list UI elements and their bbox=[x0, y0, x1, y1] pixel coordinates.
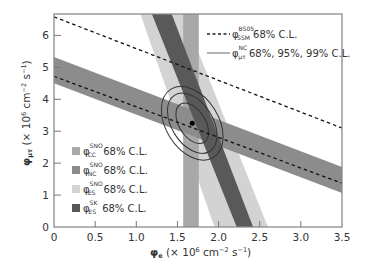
y-axis-label: φμτ (× 106 cm−2 s−1) bbox=[20, 60, 34, 166]
legend-item-es-sk: φSKES 68% C.L. bbox=[72, 199, 146, 215]
y-tick-label: 2 bbox=[42, 157, 49, 169]
x-axis-label: φe (× 106 cm−2 s−1) bbox=[150, 246, 251, 260]
legend-item-cc: φSNOCC 68% C.L. bbox=[72, 142, 148, 158]
svg-text:φSNOES 68% C.L.: φSNOES 68% C.L. bbox=[83, 180, 148, 196]
solar-neutrino-flux-chart: 00.51.01.52.02.53.03.5 0123456 φe (× 106… bbox=[0, 0, 368, 268]
x-axis-ticks: 00.51.01.52.02.53.03.5 bbox=[51, 221, 351, 243]
x-tick-label: 3.5 bbox=[334, 231, 351, 243]
y-tick-label: 6 bbox=[42, 29, 49, 41]
y-tick-label: 3 bbox=[42, 125, 49, 137]
svg-text:φSNOCC 68% C.L.: φSNOCC 68% C.L. bbox=[83, 142, 148, 158]
x-tick-label: 2.0 bbox=[210, 231, 227, 243]
y-tick-label: 0 bbox=[42, 221, 49, 233]
nc-swatch bbox=[72, 166, 80, 174]
x-tick-label: 2.5 bbox=[251, 231, 268, 243]
x-tick-label: 3.0 bbox=[293, 231, 310, 243]
legend-item-nc: φSNONC 68% C.L. bbox=[72, 161, 148, 177]
svg-text:φSNONC 68% C.L.: φSNONC 68% C.L. bbox=[83, 161, 148, 177]
legend-item-nc-contours: φNCμτ 68%, 95%, 99% C.L. bbox=[207, 44, 350, 61]
x-tick-label: 1.0 bbox=[128, 231, 145, 243]
cc-swatch bbox=[72, 147, 80, 155]
legend-item-es-sno: φSNOES 68% C.L. bbox=[72, 180, 148, 196]
x-tick-label: 1.5 bbox=[169, 231, 186, 243]
x-tick-label: 0 bbox=[51, 231, 58, 243]
es-sno-swatch bbox=[72, 185, 80, 193]
legend-top-right: φBS05SSM 68% C.L. φNCμτ 68%, 95%, 99% C.… bbox=[207, 25, 350, 61]
y-tick-label: 5 bbox=[42, 61, 49, 73]
y-tick-label: 1 bbox=[42, 189, 49, 201]
svg-text:φNCμτ 68%, 95%, 99% C.L.: φNCμτ 68%, 95%, 99% C.L. bbox=[232, 44, 350, 61]
es-sk-swatch bbox=[72, 204, 80, 212]
y-tick-label: 4 bbox=[42, 93, 49, 105]
legend-item-ssm: φBS05SSM 68% C.L. bbox=[207, 25, 297, 41]
svg-text:φBS05SSM 68% C.L.: φBS05SSM 68% C.L. bbox=[232, 25, 297, 41]
best-fit-point bbox=[190, 121, 195, 126]
svg-text:φSKES 68% C.L.: φSKES 68% C.L. bbox=[83, 199, 146, 215]
x-tick-label: 0.5 bbox=[87, 231, 104, 243]
legend-bottom-left: φSNOCC 68% C.L. φSNONC 68% C.L. φSNOES 6… bbox=[72, 142, 148, 215]
confidence-bands bbox=[54, 14, 342, 227]
